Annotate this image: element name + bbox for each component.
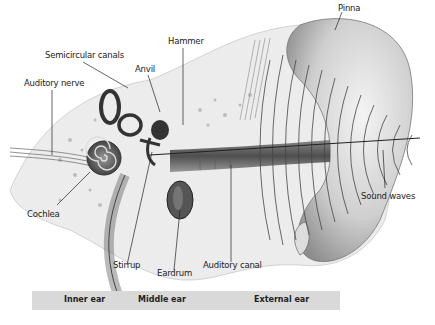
label-auditory-nerve: Auditory nerve xyxy=(24,79,84,88)
ear-illustration xyxy=(0,0,435,325)
label-semicircular-canals: Semicircular canals xyxy=(45,51,124,60)
hammer-shape xyxy=(151,120,169,140)
label-sound-waves: Sound waves xyxy=(361,192,415,201)
region-external-ear: External ear xyxy=(254,296,309,304)
label-hammer: Hammer xyxy=(168,37,204,46)
label-stirrup: Stirrup xyxy=(113,261,140,270)
label-pinna: Pinna xyxy=(338,4,360,13)
label-auditory-canal: Auditory canal xyxy=(203,261,262,270)
label-cochlea: Cochlea xyxy=(27,210,60,219)
region-inner-ear: Inner ear xyxy=(64,296,105,304)
label-anvil: Anvil xyxy=(135,65,155,74)
label-eardrum: Eardrum xyxy=(157,269,192,278)
region-middle-ear: Middle ear xyxy=(138,296,186,304)
